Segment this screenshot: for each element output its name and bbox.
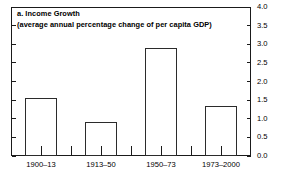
x-axis-tick-mark	[71, 146, 72, 156]
x-axis-tick-mark	[41, 146, 42, 156]
y-axis-tick-label: 2.0	[257, 78, 281, 86]
y-axis-tick-label: 0.5	[257, 133, 281, 141]
x-axis-tick-mark	[131, 146, 132, 156]
x-axis-tick-label: 1913–50	[86, 160, 116, 169]
y-axis-tick-label: 1.0	[257, 115, 281, 123]
x-axis-tick-label: 1950–73	[146, 160, 176, 169]
income-growth-chart-figure: a. Income Growth (average annual percent…	[0, 0, 284, 193]
x-axis-tick-mark	[191, 146, 192, 156]
y-axis-tick-label: 0.0	[257, 152, 281, 160]
y-axis-tick-label: 3.0	[257, 40, 281, 48]
x-axis-tick-label: 1973–2000	[202, 160, 240, 169]
y-axis-tick-label: 2.5	[257, 59, 281, 67]
x-axis-tick-label: 1900–13	[26, 160, 56, 169]
x-axis-tick-mark	[101, 146, 102, 156]
bars-layer	[11, 7, 251, 156]
x-axis-tick-mark	[221, 146, 222, 156]
y-axis-tick-label: 4.0	[257, 3, 281, 11]
bar	[145, 48, 177, 156]
y-axis-tick-label: 3.5	[257, 22, 281, 30]
y-axis-tick-label: 1.5	[257, 96, 281, 104]
x-axis-tick-mark	[161, 146, 162, 156]
